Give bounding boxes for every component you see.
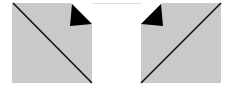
left-fold-triangle-icon <box>70 4 92 26</box>
folded-squares-diagram <box>0 0 232 87</box>
right-panel <box>141 3 221 83</box>
diagram-canvas <box>0 0 232 87</box>
center-panel <box>92 3 141 83</box>
right-fold-triangle-icon <box>141 4 163 26</box>
left-panel <box>12 3 92 83</box>
